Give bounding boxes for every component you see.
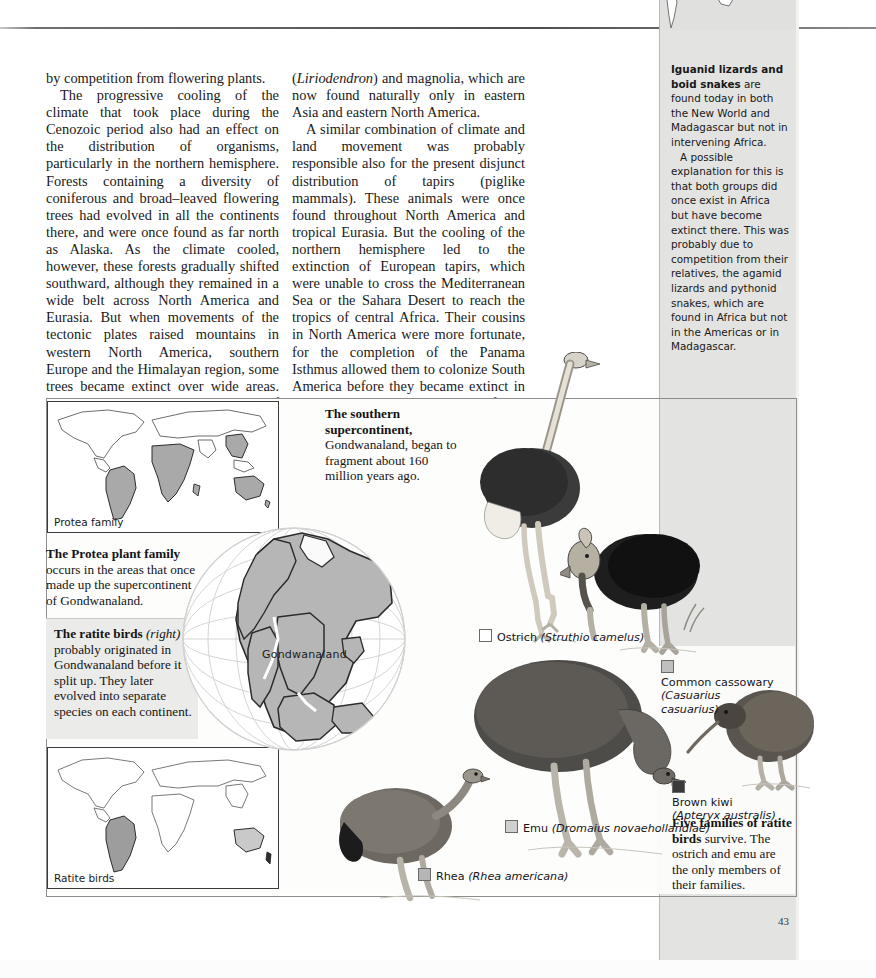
caption-protea: The Protea plant family occurs in the ar… [46, 546, 196, 608]
caption-southern-supercontinent: The southern supercontinent, Gondwanalan… [325, 406, 465, 484]
caption-protea-rest: occurs in the areas that once made up th… [46, 562, 195, 608]
sidebar-note-para-2: A possible explanation for this is that … [671, 150, 789, 354]
legend-label-ostrich: Ostrich (Struthio camelus) [497, 631, 644, 644]
map-protea-family: Protea family [47, 401, 279, 533]
paragraph: by competition from flowering plants. [46, 70, 279, 87]
globe-label-gondwanaland: Gondwanaland [262, 648, 347, 661]
illustration-rhea [330, 766, 490, 910]
legend-swatch-ostrich [479, 629, 492, 642]
caption-ratite-birds: The ratite birds (right) probably origin… [54, 626, 194, 720]
caption-ratite-italic: (right) [146, 626, 180, 641]
legend-swatch-brown-kiwi [672, 780, 685, 793]
map-ratite-birds: Ratite birds [47, 747, 279, 889]
caption-five-families: Five families of ratite birds survive. T… [672, 815, 792, 893]
legend-item-rhea: Rhea (Rhea americana) [418, 868, 568, 884]
page: by competition from flowering plants. Th… [0, 0, 876, 978]
paragraph: (Liriodendron) and magnolia, which are n… [292, 70, 525, 121]
body-column-left: by competition from flowering plants. Th… [46, 70, 279, 446]
top-world-map-clipped [659, 0, 796, 30]
legend-swatch-emu [505, 820, 518, 833]
caption-protea-lead: The Protea plant family [46, 546, 180, 561]
caption-ratite-rest: probably originated in Gondwanaland befo… [54, 642, 192, 719]
sidebar-note-para-1: Iguanid lizards and boid snakes are foun… [671, 62, 789, 150]
sidebar-note: Iguanid lizards and boid snakes are foun… [671, 62, 789, 354]
legend-swatch-common-cassowary [661, 660, 674, 673]
sidebar-note-lead: Iguanid lizards and boid snakes [671, 63, 783, 90]
caption-south-rest: Gondwanaland, began to fragment about 16… [325, 437, 456, 483]
legend-item-common-cassowary: Common cassowary(Casuarius casuarius) [661, 660, 781, 716]
legend-label-rhea: Rhea (Rhea americana) [436, 870, 568, 883]
legend-swatch-rhea [418, 868, 431, 881]
page-number: 43 [778, 915, 789, 927]
page-bottom-margin [0, 960, 876, 978]
legend-item-ostrich: Ostrich (Struthio camelus) [479, 629, 644, 645]
paragraph: The progressive cooling of the climate t… [46, 87, 279, 446]
caption-south-lead: The southern supercontinent, [325, 406, 412, 437]
globe-gondwanaland [178, 521, 410, 757]
map-label-protea: Protea family [54, 516, 123, 528]
map-label-ratite: Ratite birds [54, 872, 114, 884]
caption-ratite-lead: The ratite birds [54, 626, 143, 641]
legend-label-common-cassowary: Common cassowary(Casuarius casuarius) [661, 676, 781, 717]
illustration-emu [458, 650, 688, 884]
